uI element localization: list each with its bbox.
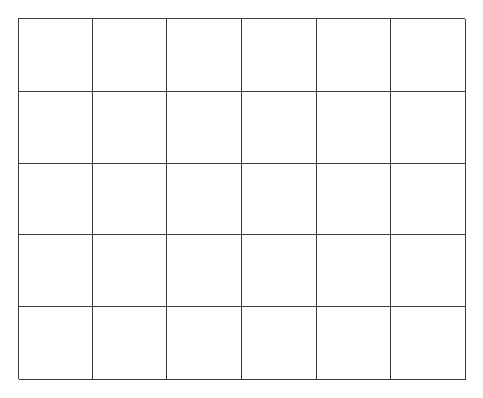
grid-cell	[167, 92, 242, 164]
grid-cell	[93, 235, 167, 307]
grid-cell	[242, 164, 317, 235]
grid-cell	[167, 164, 242, 235]
grid-cell	[19, 307, 93, 380]
grid-cell	[242, 19, 317, 92]
grid-cell	[167, 19, 242, 92]
grid-cell	[317, 164, 391, 235]
grid-cell	[19, 19, 93, 92]
empty-grid	[18, 18, 465, 379]
grid-cell	[317, 92, 391, 164]
grid-cell	[19, 235, 93, 307]
grid-cell	[93, 164, 167, 235]
grid-cell	[391, 92, 466, 164]
grid-cell	[242, 92, 317, 164]
grid-cell	[391, 164, 466, 235]
grid-cell	[167, 307, 242, 380]
grid-cell	[391, 307, 466, 380]
grid-cell	[317, 19, 391, 92]
grid-cell	[19, 92, 93, 164]
grid-cell	[167, 235, 242, 307]
grid-cell	[242, 235, 317, 307]
grid-cell	[391, 235, 466, 307]
grid-cell	[317, 235, 391, 307]
grid-cell	[391, 19, 466, 92]
grid-cell	[93, 92, 167, 164]
grid-cell	[19, 164, 93, 235]
grid-cell	[93, 19, 167, 92]
grid-cell	[317, 307, 391, 380]
grid-cell	[242, 307, 317, 380]
grid-cell	[93, 307, 167, 380]
